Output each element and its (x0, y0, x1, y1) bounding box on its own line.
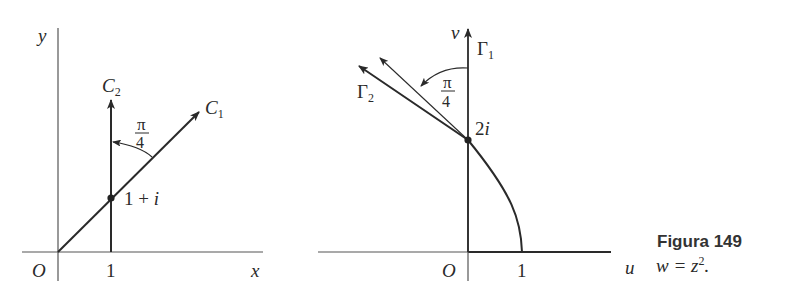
y-axis-label: y (36, 25, 47, 46)
figure-number: Figura 149 (657, 232, 742, 252)
x-axis-label: x (250, 260, 260, 281)
svg-text:4: 4 (442, 93, 450, 110)
v-axis-label: v (451, 22, 460, 43)
curve-c1-line (58, 112, 199, 252)
gamma2-curve (359, 66, 522, 252)
point-label: 1 + i (124, 188, 159, 209)
left-plot: y x O 1 C2 C1 1 + i π 4 (22, 25, 263, 281)
tangent-arrow (380, 58, 468, 140)
angle-label: π 4 (135, 115, 149, 151)
svg-text:4: 4 (136, 134, 144, 151)
gamma2-label: Γ2 (357, 81, 374, 105)
angle-label: π 4 (441, 73, 455, 110)
origin-label: O (32, 260, 46, 281)
origin-label: O (442, 260, 456, 281)
svg-text:π: π (443, 73, 452, 92)
right-plot: v u O 1 Γ1 Γ2 2i π 4 (318, 22, 635, 281)
c1-label: C1 (205, 97, 224, 121)
c2-label: C2 (102, 75, 121, 99)
figure-formula: w = z2. (656, 254, 709, 277)
u-axis-label: u (625, 257, 635, 278)
x-tick-label: 1 (106, 260, 116, 281)
gamma1-label: Γ1 (477, 38, 494, 62)
point-1-plus-i (107, 194, 114, 201)
point-label: 2i (475, 118, 490, 139)
angle-arc (113, 142, 152, 157)
svg-text:π: π (137, 115, 146, 134)
point-2i (464, 136, 471, 143)
u-tick-label: 1 (517, 260, 527, 281)
